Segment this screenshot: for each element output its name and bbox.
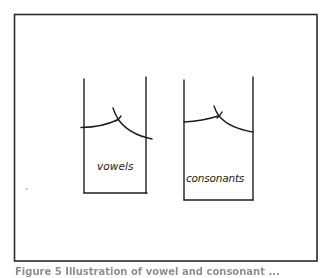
vowels-label: vowels	[97, 160, 134, 172]
consonants-left-arc	[184, 116, 218, 122]
consonants-right-arc	[214, 106, 253, 132]
container-vowels	[81, 77, 152, 193]
figure-caption: Figure 5 Illustration of vowel and conso…	[15, 266, 315, 278]
figure-frame	[15, 15, 318, 262]
vowels-left-arc	[81, 120, 117, 128]
consonants-label: consonants	[186, 172, 244, 184]
speck-mark	[26, 189, 28, 190]
